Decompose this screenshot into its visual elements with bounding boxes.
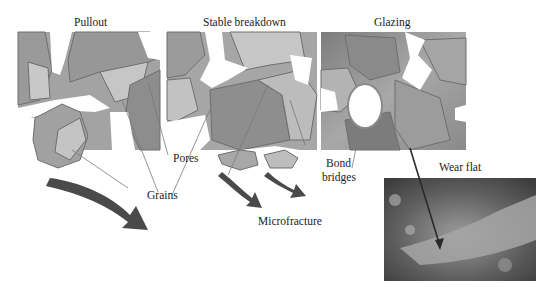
- label-microfracture: Microfracture: [258, 215, 322, 228]
- label-bond-bridges-line1: Bond: [326, 157, 351, 170]
- glazing-panel: [321, 32, 466, 150]
- label-grains: Grains: [147, 189, 178, 202]
- wheel-wear-diagram: [0, 0, 547, 297]
- panel-title-pullout: Pullout: [74, 16, 107, 29]
- label-pores: Pores: [173, 152, 199, 165]
- label-bond-bridges-line2: bridges: [322, 171, 356, 184]
- panel-title-glazing: Glazing: [374, 16, 410, 29]
- label-wear-flat: Wear flat: [439, 161, 481, 174]
- stable-breakdown-panel: [167, 32, 317, 208]
- panel-title-stable-breakdown: Stable breakdown: [203, 16, 286, 29]
- sem-wear-flat-image: [384, 178, 536, 281]
- pullout-panel: [18, 32, 160, 230]
